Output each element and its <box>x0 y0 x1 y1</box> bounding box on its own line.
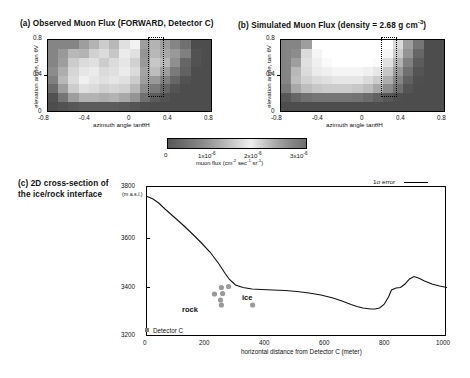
panel-b-title: (b) Simulated Muon Flux (density = 2.68 … <box>238 19 426 30</box>
heatmap-cell <box>413 76 423 85</box>
heatmap-cell <box>312 84 322 93</box>
heatmap-cell <box>363 58 373 67</box>
heatmap-cell <box>99 76 109 85</box>
highlight-box-a <box>148 37 164 97</box>
panel-a-xtick-0: 0 <box>127 114 131 121</box>
panel-c-xaxis-label: horizontal distance from Detector C (met… <box>241 348 362 355</box>
panel-c-title-line2: the ice/rock interface <box>18 190 102 199</box>
panel-a-yaxis-label: elevation angle, tan θV <box>32 45 39 108</box>
heatmap-cell <box>68 76 78 85</box>
heatmap-cell <box>99 40 109 49</box>
heatmap-cell <box>301 67 311 76</box>
heatmap-simulated[interactable] <box>280 39 445 112</box>
heatmap-cell <box>99 93 109 102</box>
panel-c-xtick-400: 400 <box>259 339 270 346</box>
heatmap-cell <box>342 49 352 58</box>
heatmap-cell <box>281 93 291 102</box>
heatmap-cell <box>191 102 201 111</box>
heatmap-cell <box>424 67 434 76</box>
heatmap-cell <box>109 49 119 58</box>
heatmap-cell <box>363 76 373 85</box>
heatmap-cell <box>79 67 89 76</box>
annotation-ice: ice <box>242 293 253 302</box>
heatmap-cell <box>48 76 58 85</box>
heatmap-cell <box>352 49 362 58</box>
heatmap-cell <box>322 40 332 49</box>
heatmap-cell <box>119 67 129 76</box>
panel-a-ytick-0.8: 0.8 <box>33 34 42 41</box>
heatmap-cell <box>322 93 332 102</box>
heatmap-cell <box>130 49 140 58</box>
heatmap-cell <box>130 93 140 102</box>
heatmap-cell <box>191 49 201 58</box>
heatmap-cell <box>109 84 119 93</box>
heatmap-cell <box>424 49 434 58</box>
panel-c-ytick-3800: 3800 <box>121 182 135 189</box>
heatmap-cell <box>342 76 352 85</box>
heatmap-cell <box>424 40 434 49</box>
heatmap-cell <box>281 67 291 76</box>
heatmap-cell <box>109 102 119 111</box>
heatmap-cell <box>434 76 444 85</box>
heatmap-cell <box>363 93 373 102</box>
heatmap-cell <box>48 67 58 76</box>
heatmap-cell <box>180 84 190 93</box>
heatmap-cell <box>291 40 301 49</box>
heatmap-cell <box>109 40 119 49</box>
heatmap-cell <box>79 93 89 102</box>
heatmap-cell <box>424 93 434 102</box>
heatmap-cell <box>191 40 201 49</box>
heatmap-cell <box>191 67 201 76</box>
heatmap-cell <box>312 58 322 67</box>
heatmap-cell <box>424 102 434 111</box>
heatmap-cell <box>170 40 180 49</box>
heatmap-cell <box>342 40 352 49</box>
heatmap-cell <box>301 84 311 93</box>
legend-label-sigma-error: 1σ error <box>373 178 395 185</box>
colorbar-tick-3-text: 3x10 <box>290 152 303 159</box>
measurement-point <box>219 285 224 290</box>
cb-unit-tail: ) <box>261 160 263 166</box>
heatmap-cell <box>201 102 211 111</box>
heatmap-cell <box>58 102 68 111</box>
heatmap-cell <box>130 102 140 111</box>
panel-c-xtick-1000: 1000 <box>436 339 450 346</box>
cb-unit-main: muon flux (cm <box>196 160 232 166</box>
heatmap-cell <box>201 76 211 85</box>
heatmap-cell <box>130 40 140 49</box>
heatmap-cell <box>191 76 201 85</box>
colorbar-tick-3-sup: -6 <box>303 151 307 156</box>
heatmap-cell <box>403 84 413 93</box>
heatmap-cell <box>170 102 180 111</box>
panel-b-xtick--0.8: -0.8 <box>271 114 282 121</box>
panel-a-ytick-0: 0 <box>38 107 42 114</box>
heatmap-cell <box>383 102 393 111</box>
heatmap-cell <box>332 102 342 111</box>
heatmap-cell <box>434 40 444 49</box>
heatmap-cell <box>301 102 311 111</box>
measurement-point <box>218 297 223 302</box>
heatmap-cell <box>322 102 332 111</box>
heatmap-cell <box>332 67 342 76</box>
heatmap-cell <box>312 40 322 49</box>
heatmap-cell <box>68 84 78 93</box>
heatmap-cell <box>89 84 99 93</box>
heatmap-cell <box>89 49 99 58</box>
heatmap-cell <box>79 49 89 58</box>
heatmap-cell <box>434 93 444 102</box>
heatmap-cell <box>291 93 301 102</box>
heatmap-cell <box>352 67 362 76</box>
panel-c-ytick-3200: 3200 <box>121 331 135 338</box>
panel-c-xtick-200: 200 <box>199 339 210 346</box>
heatmap-cell <box>201 49 211 58</box>
detector-marker <box>145 328 149 332</box>
heatmap-cell <box>180 67 190 76</box>
panel-c-xtick-800: 800 <box>379 339 390 346</box>
heatmap-cell <box>301 93 311 102</box>
measurement-point <box>226 284 231 289</box>
heatmap-cell <box>130 76 140 85</box>
heatmap-cell <box>201 67 211 76</box>
heatmap-cell <box>58 40 68 49</box>
heatmap-observed[interactable] <box>47 39 212 112</box>
heatmap-cell <box>352 76 362 85</box>
